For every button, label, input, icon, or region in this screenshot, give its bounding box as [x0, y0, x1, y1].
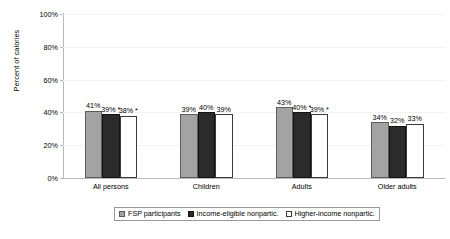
- bar: 41%: [85, 111, 103, 178]
- bar: 39%: [180, 114, 198, 178]
- chart-legend: FSP participantsIncome-eligible nonparti…: [114, 207, 380, 221]
- bar-value-label: 32%: [390, 116, 404, 125]
- bar-group: 34%32%33%: [371, 14, 424, 178]
- y-axis-tick-label: 20%: [44, 141, 58, 150]
- bar-value-label: 39% *: [310, 105, 329, 114]
- legend-label: Higher-income nonpartic.: [295, 210, 375, 217]
- legend-item: Income-eligible nonpartic.: [188, 210, 279, 217]
- bar-value-label: 39%: [182, 105, 196, 114]
- y-axis-tick-mark: [60, 14, 63, 15]
- bar-value-label: 40%: [199, 103, 213, 112]
- bar-chart: Percent of calories 0%20%40%60%80%100% 4…: [0, 0, 450, 239]
- legend-label: Income-eligible nonpartic.: [197, 210, 279, 217]
- x-axis-line: [63, 178, 445, 179]
- bar-group: 43%40% *39% *: [276, 14, 329, 178]
- bar: 40% *: [293, 112, 311, 178]
- bar: 40%: [198, 112, 216, 178]
- bar: 38% *: [120, 116, 138, 178]
- y-axis-tick-label: 80%: [44, 42, 58, 51]
- legend-swatch: [188, 211, 194, 217]
- plot-area: 0%20%40%60%80%100% 41%39% *38% *39%40%39…: [63, 14, 445, 178]
- legend-swatch: [286, 211, 292, 217]
- x-axis-category-label: Children: [159, 182, 255, 191]
- bar: 34%: [371, 122, 389, 178]
- y-axis-tick-mark: [60, 112, 63, 113]
- bar: 39%: [215, 114, 233, 178]
- y-axis-title: Percent of calories: [12, 1, 21, 121]
- bar-value-label: 34%: [373, 113, 387, 122]
- y-axis-tick-mark: [60, 80, 63, 81]
- bar-value-label: 39% *: [101, 105, 120, 114]
- bar-value-label: 39%: [217, 105, 231, 114]
- y-axis-tick-label: 0%: [48, 174, 58, 183]
- bar-value-label: 33%: [408, 114, 422, 123]
- legend-label: FSP participants: [128, 210, 181, 217]
- legend-swatch: [119, 211, 125, 217]
- bar: 39% *: [102, 114, 120, 178]
- y-axis-tick-mark: [60, 178, 63, 179]
- bar-value-label: 43%: [277, 98, 291, 107]
- bar: 32%: [389, 126, 407, 178]
- legend-item: Higher-income nonpartic.: [286, 210, 375, 217]
- legend-item: FSP participants: [119, 210, 181, 217]
- y-axis-tick-mark: [60, 47, 63, 48]
- x-axis-category-label: Adults: [254, 182, 350, 191]
- y-axis-tick-label: 40%: [44, 108, 58, 117]
- bar-group: 39%40%39%: [180, 14, 233, 178]
- y-axis-tick-mark: [60, 145, 63, 146]
- bar-group: 41%39% *38% *: [85, 14, 138, 178]
- y-axis-tick-label: 60%: [44, 75, 58, 84]
- bar: 33%: [406, 124, 424, 178]
- bar: 39% *: [311, 114, 329, 178]
- bar-value-label: 40% *: [292, 103, 311, 112]
- bar-value-label: 41%: [86, 101, 100, 110]
- bar-value-label: 38% *: [119, 106, 138, 115]
- y-axis-tick-label: 100%: [40, 10, 58, 19]
- x-axis-category-label: Older adults: [350, 182, 446, 191]
- bar: 43%: [276, 107, 294, 178]
- x-axis-category-label: All persons: [63, 182, 159, 191]
